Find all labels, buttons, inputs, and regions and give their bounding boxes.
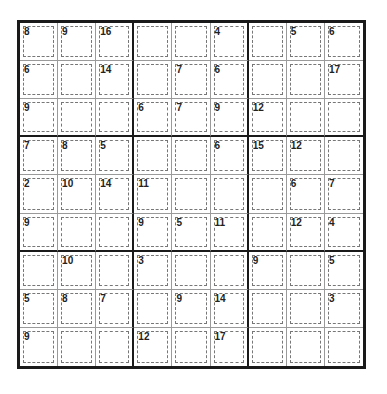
cell-r9c9[interactable] <box>325 328 363 366</box>
cell-r6c1[interactable]: 9 <box>20 214 58 252</box>
cell-r1c8[interactable]: 5 <box>287 23 325 61</box>
cell-r3c2[interactable] <box>58 99 96 137</box>
cell-r7c7[interactable]: 9 <box>249 252 287 290</box>
cell-r2c9[interactable]: 17 <box>325 61 363 99</box>
cell-r5c3[interactable]: 14 <box>96 175 134 213</box>
cell-r3c5[interactable]: 7 <box>172 99 210 137</box>
cell-r6c5[interactable]: 5 <box>172 214 210 252</box>
cell-r5c5[interactable] <box>172 175 210 213</box>
cage-border <box>61 331 92 363</box>
cell-r2c2[interactable] <box>58 61 96 99</box>
cell-r4c9[interactable] <box>325 137 363 175</box>
cell-r2c6[interactable]: 6 <box>211 61 249 99</box>
cell-r6c6[interactable]: 11 <box>211 214 249 252</box>
cell-r2c8[interactable] <box>287 61 325 99</box>
cell-r8c2[interactable]: 8 <box>58 290 96 328</box>
cell-r6c2[interactable] <box>58 214 96 252</box>
cell-r7c4[interactable]: 3 <box>134 252 172 290</box>
cell-r6c9[interactable]: 4 <box>325 214 363 252</box>
cell-r9c4[interactable]: 12 <box>134 328 172 366</box>
cell-r7c5[interactable] <box>172 252 210 290</box>
cell-r1c2[interactable]: 9 <box>58 23 96 61</box>
cell-r3c8[interactable] <box>287 99 325 137</box>
cage-sum-label: 14 <box>215 293 226 304</box>
cell-r4c7[interactable]: 15 <box>249 137 287 175</box>
cell-r4c2[interactable]: 8 <box>58 137 96 175</box>
cell-r1c9[interactable]: 6 <box>325 23 363 61</box>
cell-r9c2[interactable] <box>58 328 96 366</box>
cell-r2c4[interactable] <box>134 61 172 99</box>
cell-r7c2[interactable]: 10 <box>58 252 96 290</box>
cell-r9c7[interactable] <box>249 328 287 366</box>
cell-r6c7[interactable] <box>249 214 287 252</box>
cell-r5c4[interactable]: 11 <box>134 175 172 213</box>
cell-r4c4[interactable] <box>134 137 172 175</box>
cage-sum-label: 14 <box>100 178 111 189</box>
cell-r9c1[interactable]: 9 <box>20 328 58 366</box>
cell-r2c5[interactable]: 7 <box>172 61 210 99</box>
cell-r4c5[interactable] <box>172 137 210 175</box>
cell-r8c8[interactable] <box>287 290 325 328</box>
cell-r3c4[interactable]: 6 <box>134 99 172 137</box>
cage-sum-label: 2 <box>24 178 30 189</box>
cell-r6c4[interactable]: 9 <box>134 214 172 252</box>
cell-r5c6[interactable] <box>211 175 249 213</box>
cell-r8c6[interactable]: 14 <box>211 290 249 328</box>
cell-r1c5[interactable] <box>172 23 210 61</box>
cell-r7c9[interactable]: 5 <box>325 252 363 290</box>
cell-r8c3[interactable]: 7 <box>96 290 134 328</box>
cage-border <box>252 217 283 247</box>
cage-sum-label: 3 <box>138 255 144 266</box>
cell-r8c5[interactable]: 9 <box>172 290 210 328</box>
cell-r2c1[interactable]: 6 <box>20 61 58 99</box>
cage-sum-label: 3 <box>329 293 335 304</box>
cell-r9c8[interactable] <box>287 328 325 366</box>
cage-sum-label: 7 <box>176 64 182 75</box>
cage-sum-label: 9 <box>215 102 221 113</box>
cell-r3c9[interactable] <box>325 99 363 137</box>
cell-r6c8[interactable]: 12 <box>287 214 325 252</box>
cage-border <box>61 64 92 95</box>
cell-r9c3[interactable] <box>96 328 134 366</box>
cell-r5c7[interactable] <box>249 175 287 213</box>
cell-r7c1[interactable] <box>20 252 58 290</box>
cage-sum-label: 6 <box>138 102 144 113</box>
cell-r3c6[interactable]: 9 <box>211 99 249 137</box>
cage-border <box>175 178 206 209</box>
cage-sum-label: 9 <box>253 255 259 266</box>
cage-sum-label: 6 <box>215 140 221 151</box>
cage-sum-label: 9 <box>24 217 30 228</box>
cell-r7c3[interactable] <box>96 252 134 290</box>
cell-r5c8[interactable]: 6 <box>287 175 325 213</box>
cell-r1c7[interactable] <box>249 23 287 61</box>
cell-r6c3[interactable] <box>96 214 134 252</box>
cell-r3c7[interactable]: 12 <box>249 99 287 137</box>
cell-r9c5[interactable] <box>172 328 210 366</box>
cell-r5c1[interactable]: 2 <box>20 175 58 213</box>
cell-r4c1[interactable]: 7 <box>20 137 58 175</box>
cage-sum-label: 17 <box>215 331 226 342</box>
cell-r1c4[interactable] <box>134 23 172 61</box>
cell-r5c2[interactable]: 10 <box>58 175 96 213</box>
cell-r8c9[interactable]: 3 <box>325 290 363 328</box>
cell-r8c4[interactable] <box>134 290 172 328</box>
cell-r1c6[interactable]: 4 <box>211 23 249 61</box>
cell-r7c8[interactable] <box>287 252 325 290</box>
cell-r4c3[interactable]: 5 <box>96 137 134 175</box>
cell-r8c7[interactable] <box>249 290 287 328</box>
cell-r3c3[interactable] <box>96 99 134 137</box>
cage-sum-label: 7 <box>329 178 335 189</box>
cage-border <box>328 102 360 132</box>
cell-r5c9[interactable]: 7 <box>325 175 363 213</box>
cell-r1c1[interactable]: 8 <box>20 23 58 61</box>
cell-r9c6[interactable]: 17 <box>211 328 249 366</box>
cell-r4c6[interactable]: 6 <box>211 137 249 175</box>
cell-r2c7[interactable] <box>249 61 287 99</box>
cell-r3c1[interactable]: 9 <box>20 99 58 137</box>
cell-r8c1[interactable]: 5 <box>20 290 58 328</box>
cell-r1c3[interactable]: 16 <box>96 23 134 61</box>
cell-r7c6[interactable] <box>211 252 249 290</box>
cell-r4c8[interactable]: 12 <box>287 137 325 175</box>
cage-border <box>99 331 129 363</box>
cell-r2c3[interactable]: 14 <box>96 61 134 99</box>
